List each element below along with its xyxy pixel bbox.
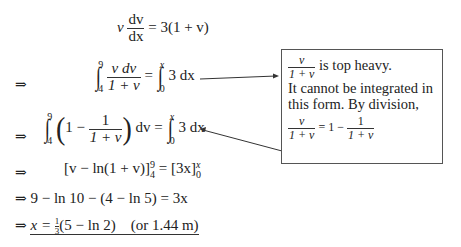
arrow-from-note-icon	[203, 130, 282, 151]
division-identity: v 1 + v = 1 − 1 1 + v	[288, 115, 436, 141]
annotation-box: v 1 + v is top heavy. It cannot be integ…	[281, 49, 443, 164]
arrow-to-note-icon	[200, 76, 276, 79]
note-fraction: v 1 + v	[288, 54, 315, 80]
